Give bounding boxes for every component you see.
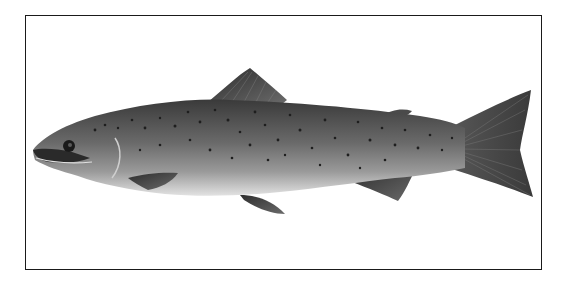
pelvic-fin — [240, 195, 285, 214]
salmon-illustration — [0, 0, 571, 289]
caudal-fin — [455, 90, 533, 197]
dorsal-fin — [208, 68, 287, 104]
